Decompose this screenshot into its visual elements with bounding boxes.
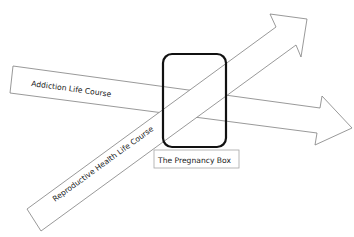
pregnancy-box-label-text: The Pregnancy Box	[157, 156, 231, 165]
pregnancy-box-label: The Pregnancy Box	[154, 150, 239, 168]
diagram-canvas: Addiction Life Course Reproductive Healt…	[0, 0, 354, 237]
reproductive-arrow-label: Reproductive Health Life Course	[51, 124, 156, 203]
